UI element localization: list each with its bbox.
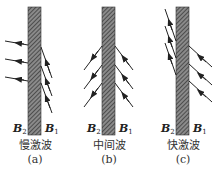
panel-a: B2 B1 慢激波 (a) <box>5 7 59 166</box>
shock-front-c <box>176 7 189 135</box>
caption-a: 慢激波 <box>19 138 52 152</box>
shock-front-a <box>28 7 41 135</box>
label-b2-a: B2 <box>12 122 27 136</box>
field-lines-b1-c <box>189 46 212 102</box>
tag-c: (c) <box>176 153 191 166</box>
caption-b: 中间波 <box>93 139 126 152</box>
caption-c: 快激波 <box>167 138 200 152</box>
tag-a: (a) <box>27 153 42 166</box>
field-lines-b2-b <box>84 46 102 107</box>
field-lines-b1-a <box>41 47 52 113</box>
label-b2-c: B2 <box>160 122 175 136</box>
field-lines-b2-c <box>165 9 176 75</box>
field-lines-b2-a <box>5 41 28 81</box>
shock-wave-diagram: B2 B1 慢激波 (a) B2 B1 中间波 (b) <box>0 0 218 169</box>
label-b1-a: B1 <box>44 122 59 136</box>
label-b1-c: B1 <box>192 122 207 136</box>
tag-b: (b) <box>101 153 117 166</box>
field-lines-b1-b <box>115 46 133 107</box>
label-b2-b: B2 <box>86 122 101 136</box>
shock-front-b <box>102 7 115 135</box>
panel-c: B2 B1 快激波 (c) <box>160 7 212 166</box>
label-b1-b: B1 <box>118 122 133 136</box>
panel-b: B2 B1 中间波 (b) <box>84 7 133 166</box>
